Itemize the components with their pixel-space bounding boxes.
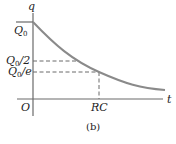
y-axis-label: q — [28, 1, 35, 12]
q0-over-e-tick-label: Q0/e — [8, 66, 32, 79]
figure-caption: (b) — [86, 122, 100, 132]
q0-tick-label: Q0 — [14, 25, 28, 38]
rc-tick-label: RC — [91, 102, 108, 113]
origin-label: O — [21, 102, 30, 113]
x-axis-label: t — [167, 94, 171, 105]
